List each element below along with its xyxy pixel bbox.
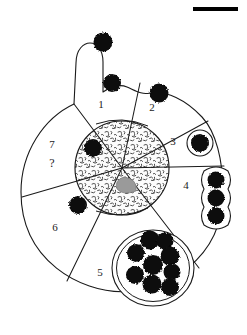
external-particle-2 [103, 74, 121, 92]
vacuole-particle-3 [127, 244, 145, 262]
cytoplasm-particle-sector-6 [69, 196, 87, 214]
sector-7-label: 7 [49, 138, 55, 150]
figure-root: 1 2 3 4 5 6 7 ? [0, 0, 247, 335]
sector-6-label: 6 [52, 221, 58, 233]
vacuole-particle-6 [126, 266, 144, 284]
phagosome-particle-4c [208, 208, 225, 225]
sector-2-label: 2 [149, 101, 155, 113]
sector-5-label: 5 [97, 266, 103, 278]
phagolysosome-vacuole [112, 230, 194, 306]
sector-3-label: 3 [170, 135, 176, 147]
external-particle-1 [94, 33, 113, 52]
scale-bar [193, 7, 238, 11]
phagosome-particle-4b [208, 190, 225, 207]
engulfed-particle-sector-3 [187, 130, 213, 156]
cell-diagram-svg: 1 2 3 4 5 6 7 ? [0, 0, 247, 335]
vacuole-particle-9 [161, 278, 179, 296]
cytoplasm-particle-sector-7 [84, 139, 102, 157]
sector-7-question-mark: ? [49, 156, 54, 170]
sector-1-label: 1 [98, 98, 104, 110]
vacuole-particle-8 [143, 275, 162, 294]
phagosome-chain-sector-4 [202, 167, 231, 229]
vacuole-particle-7 [164, 264, 181, 281]
sector-4-label: 4 [183, 179, 189, 191]
vacuole-particle-4 [161, 247, 180, 266]
vacuole-particle-5 [143, 255, 163, 275]
phagosome-cargo-sector-3 [191, 134, 209, 152]
phagosome-particle-4a [208, 172, 225, 189]
